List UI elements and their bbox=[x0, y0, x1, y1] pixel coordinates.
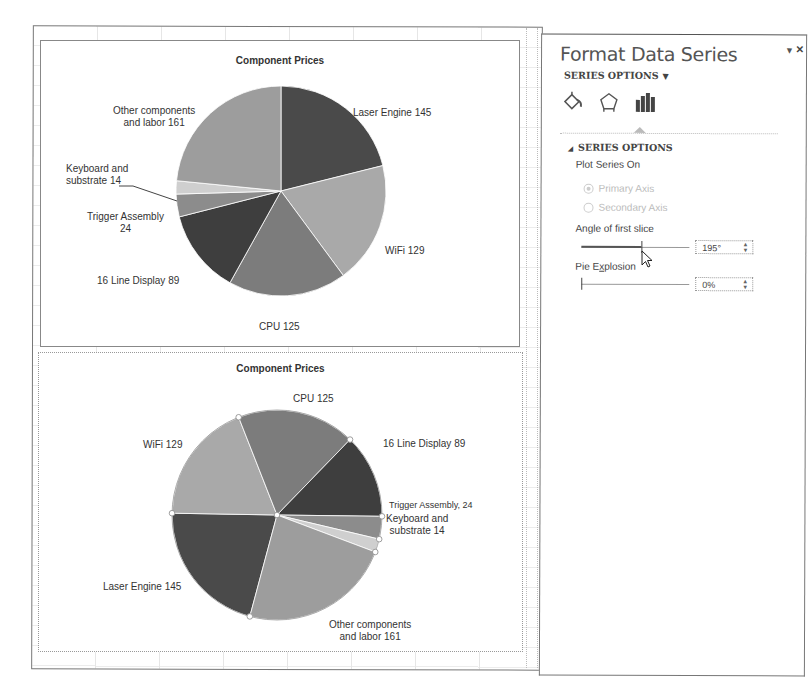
format-data-series-pane: Format Data Series ▼ × SERIES OPTIONS▼ ◢… bbox=[539, 34, 807, 677]
chart-component-prices-1[interactable]: Component Prices Other components and la… bbox=[40, 40, 520, 347]
angle-slider[interactable] bbox=[581, 247, 689, 248]
data-label-display: 16 Line Display 89 bbox=[383, 438, 465, 450]
data-label-display: 16 Line Display 89 bbox=[97, 275, 179, 287]
selection-handle[interactable] bbox=[169, 510, 175, 516]
selection-handle[interactable] bbox=[247, 614, 253, 620]
explosion-value: 0% bbox=[702, 280, 715, 290]
angle-value: 195° bbox=[702, 243, 721, 253]
data-label-wifi: WiFi 129 bbox=[143, 439, 182, 451]
label-line: and labor 161 bbox=[329, 631, 411, 643]
angle-of-first-slice-label: Angle of first slice bbox=[575, 223, 653, 234]
spin-arrows-icon[interactable]: ▲▼ bbox=[742, 278, 748, 290]
secondary-axis-label: Secondary Axis bbox=[598, 202, 667, 213]
tab-fill-line[interactable] bbox=[562, 91, 584, 113]
selection-handle[interactable] bbox=[274, 512, 280, 518]
explosion-spinbox[interactable]: 0% ▲▼ bbox=[695, 277, 753, 291]
plot-series-on-label: Plot Series On bbox=[576, 159, 641, 170]
selection-handle[interactable] bbox=[372, 549, 378, 555]
data-label-trigger: Trigger Assembly, 24 bbox=[389, 499, 473, 511]
selection-handle[interactable] bbox=[236, 414, 242, 420]
radio-unselected-icon bbox=[583, 203, 593, 213]
data-label-trigger: Trigger Assembly 24 bbox=[87, 211, 164, 235]
secondary-axis-radio[interactable]: Secondary Axis bbox=[583, 202, 667, 214]
data-label-laser: Laser Engine 145 bbox=[103, 581, 181, 593]
data-label-other: Other components and labor 161 bbox=[329, 619, 411, 643]
selection-handle[interactable] bbox=[347, 437, 353, 443]
collapse-triangle-icon: ◢ bbox=[568, 144, 573, 153]
data-label-cpu: CPU 125 bbox=[293, 393, 334, 405]
series-options-section-header[interactable]: ◢SERIES OPTIONS bbox=[568, 142, 673, 153]
section-title: SERIES OPTIONS bbox=[578, 142, 673, 153]
spin-arrows-icon[interactable]: ▲▼ bbox=[742, 241, 748, 253]
data-label-keyboard: Keyboard and substrate 14 bbox=[386, 513, 448, 537]
pie-explosion-label: Pie Explosion bbox=[575, 261, 636, 272]
primary-axis-label: Primary Axis bbox=[599, 183, 655, 194]
label-line: Keyboard and bbox=[386, 513, 448, 525]
chevron-down-icon: ▼ bbox=[663, 71, 669, 81]
radio-selected-icon bbox=[584, 184, 594, 194]
tab-effects[interactable] bbox=[598, 91, 620, 113]
active-tab-indicator bbox=[634, 127, 646, 133]
label-line: 24 bbox=[87, 223, 164, 235]
series-options-menu[interactable]: SERIES OPTIONS▼ bbox=[564, 70, 669, 81]
selection-handle[interactable] bbox=[379, 514, 385, 520]
label-line: Other components bbox=[329, 619, 411, 631]
primary-axis-radio[interactable]: Primary Axis bbox=[584, 183, 655, 195]
pentagon-icon bbox=[598, 91, 620, 113]
data-label-wifi: WiFi 129 bbox=[385, 245, 424, 257]
pane-options-dropdown-icon[interactable]: ▼ bbox=[785, 45, 794, 55]
explosion-slider[interactable] bbox=[581, 284, 689, 285]
bar-chart-icon bbox=[634, 91, 656, 113]
series-options-menu-label: SERIES OPTIONS bbox=[564, 70, 659, 81]
tab-divider bbox=[560, 133, 778, 135]
mouse-cursor-icon bbox=[641, 250, 655, 270]
slider-fill bbox=[581, 246, 641, 248]
label-line: Trigger Assembly bbox=[87, 211, 164, 223]
label-line: substrate 14 bbox=[386, 525, 448, 537]
slider-thumb[interactable] bbox=[581, 278, 582, 290]
close-icon[interactable]: × bbox=[796, 41, 804, 56]
data-label-cpu: CPU 125 bbox=[259, 321, 300, 333]
paint-bucket-icon bbox=[562, 91, 584, 113]
selection-handle[interactable] bbox=[376, 536, 382, 542]
angle-spinbox[interactable]: 195° ▲▼ bbox=[695, 240, 753, 254]
chart-component-prices-2[interactable]: Component Prices CPU 125 WiFi 129 16 Lin… bbox=[38, 352, 523, 652]
leader-line bbox=[41, 41, 519, 346]
pane-splitter[interactable] bbox=[526, 28, 538, 668]
tab-series-options[interactable] bbox=[634, 91, 656, 113]
pane-title: Format Data Series bbox=[560, 43, 738, 66]
